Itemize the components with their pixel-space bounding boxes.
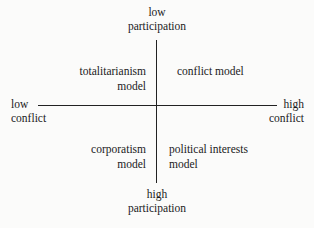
quadrant-tl-line1: totalitarianism: [10, 64, 146, 79]
axis-pole-right-high-conflict: high conflict: [269, 98, 304, 125]
axis-pole-right-line1: high: [269, 98, 304, 112]
quadrant-tl-line2: model: [10, 79, 146, 94]
vertical-axis-line: [156, 40, 157, 183]
quadrant-br-line2: model: [169, 157, 248, 172]
quadrant-label-totalitarianism-model: totalitarianism model: [10, 64, 146, 93]
axis-pole-top-low-participation: low participation: [0, 6, 314, 33]
axis-pole-top-line1: low: [0, 6, 314, 20]
axis-pole-bottom-line2: participation: [0, 202, 314, 216]
axis-pole-right-line2: conflict: [269, 112, 304, 126]
axis-pole-left-line1: low: [11, 98, 46, 112]
horizontal-axis-line: [38, 105, 277, 106]
quadrant-label-corporatism-model: corporatism model: [10, 142, 146, 171]
axis-pole-bottom-line1: high: [0, 188, 314, 202]
quadrant-diagram: low participation high participation low…: [0, 0, 314, 228]
axis-pole-left-low-conflict: low conflict: [11, 98, 46, 125]
axis-pole-bottom-high-participation: high participation: [0, 188, 314, 215]
quadrant-tr-line1: conflict model: [177, 64, 244, 79]
quadrant-bl-line2: model: [10, 157, 146, 172]
quadrant-label-political-interests-model: political interests model: [169, 142, 248, 171]
quadrant-br-line1: political interests: [169, 142, 248, 157]
quadrant-bl-line1: corporatism: [10, 142, 146, 157]
axis-pole-top-line2: participation: [0, 20, 314, 34]
quadrant-label-conflict-model: conflict model: [177, 64, 244, 79]
axis-pole-left-line2: conflict: [11, 112, 46, 126]
